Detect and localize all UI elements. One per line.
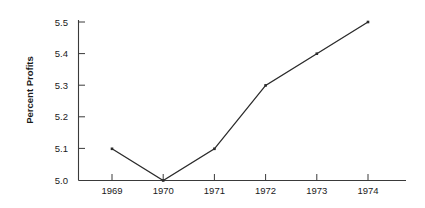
y-axis-title: Percent Profits — [24, 56, 35, 124]
y-tick-label: 5.5 — [55, 17, 68, 28]
x-tick-label: 1974 — [357, 185, 378, 196]
x-tick-label: 1969 — [101, 185, 122, 196]
chart-canvas: Percent Profits 5.5 5.4 5.3 5.2 5.1 5.0 — [0, 0, 425, 208]
line-chart: Percent Profits 5.5 5.4 5.3 5.2 5.1 5.0 — [0, 0, 425, 208]
x-tick-label: 1973 — [306, 185, 327, 196]
data-series-percent-profits — [111, 21, 370, 182]
y-tick-label: 5.4 — [55, 48, 68, 59]
x-tick-label: 1972 — [255, 185, 276, 196]
data-point-marker — [316, 52, 319, 55]
x-axis-tick-labels: 1969 1970 1971 1972 1973 1974 — [101, 185, 378, 196]
data-point-marker — [111, 148, 114, 151]
y-tick-label: 5.3 — [55, 80, 68, 91]
y-tick-label: 5.0 — [55, 175, 68, 186]
x-tick-label: 1971 — [204, 185, 225, 196]
y-tick-label: 5.2 — [55, 111, 68, 122]
y-tick-label: 5.1 — [55, 143, 68, 154]
y-axis-tick-labels: 5.5 5.4 5.3 5.2 5.1 5.0 — [55, 17, 68, 186]
series-line — [112, 22, 368, 181]
data-point-marker — [264, 84, 267, 87]
data-point-marker — [213, 148, 216, 151]
x-tick-label: 1970 — [153, 185, 174, 196]
data-point-marker — [162, 179, 165, 182]
x-axis-ticks — [112, 174, 368, 181]
y-axis-ticks — [79, 22, 86, 148]
data-point-marker — [367, 21, 370, 24]
